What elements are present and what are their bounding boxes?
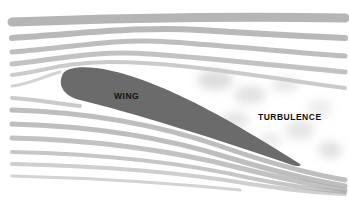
- diagram-canvas: [0, 0, 349, 202]
- turbulence-label: TURBULENCE: [258, 112, 322, 122]
- wing-label: WING: [114, 91, 139, 101]
- wing-airflow-diagram: WING TURBULENCE: [0, 0, 349, 202]
